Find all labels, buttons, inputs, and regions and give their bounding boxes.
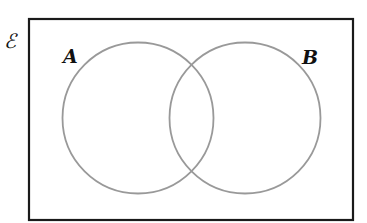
- venn-diagram: ℰ A B: [0, 0, 367, 223]
- set-a-label: A: [61, 45, 78, 67]
- set-b-circle: [170, 43, 321, 194]
- set-b-label: B: [301, 46, 318, 68]
- universal-set-label: ℰ: [4, 29, 18, 53]
